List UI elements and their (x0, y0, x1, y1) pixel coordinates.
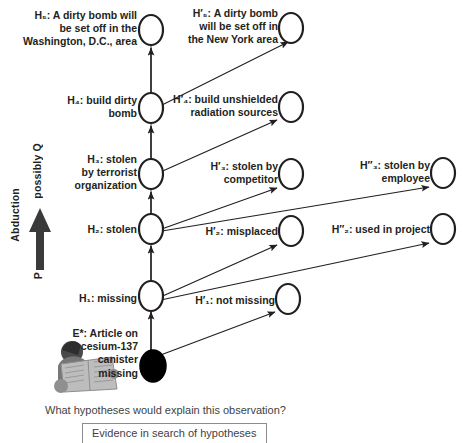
node-label-h4: H₄: build dirty bomb (42, 94, 137, 120)
node-h1[interactable] (139, 281, 163, 311)
node-label-h3: H₃: stolen by terrorist organization (52, 153, 137, 193)
axis-label-possibly-q: possibly Q (31, 143, 43, 199)
node-h3-doubleprime[interactable] (431, 158, 455, 188)
edge-estar-h1p (158, 312, 275, 356)
node-h3[interactable] (139, 159, 163, 189)
abduction-up-arrow-icon (29, 208, 51, 270)
node-h2[interactable] (139, 214, 163, 244)
node-label-h3-prime: H′₃: stolen by competitor (185, 160, 278, 186)
node-label-h1-prime: H′₁: not missing (173, 294, 275, 307)
node-label-estar: E*: Article on cesium-137 canister missi… (56, 327, 138, 380)
node-label-h5: H₅: A dirty bomb will be set off in the … (14, 9, 137, 49)
node-label-h4-prime: H′₄: build unshielded radiation sources (150, 93, 278, 119)
caption-box-evidence-in-search-of-hypotheses: Evidence in search of hypotheses (82, 423, 267, 443)
node-h1-prime[interactable] (276, 284, 300, 314)
axis-label-abduction: Abduction (9, 188, 21, 242)
node-h2-prime[interactable] (279, 216, 303, 246)
node-h2-doubleprime[interactable] (431, 214, 455, 244)
node-label-h2-prime: H′₂: misplaced (178, 225, 278, 238)
node-h5-prime[interactable] (279, 13, 303, 43)
diagram-canvas: H₅: A dirty bomb will be set off in the … (0, 0, 465, 443)
node-h5[interactable] (139, 15, 163, 45)
node-label-h1: H₁: missing (47, 292, 137, 305)
question-text: What hypotheses would explain this obser… (45, 404, 286, 416)
axis-label-p: P (32, 272, 44, 279)
node-h4-prime[interactable] (279, 92, 303, 122)
node-label-h3-doubleprime: H″₃: stolen by employee (337, 159, 430, 185)
node-label-h2-doubleprime: H″₂: used in project (310, 223, 430, 236)
node-label-h2: H₂: stolen (52, 223, 137, 236)
node-h3-prime[interactable] (279, 159, 303, 189)
node-label-h5-prime: H′₅: A dirty bomb will be set off in the… (168, 7, 278, 47)
edge-h1-h2p (156, 245, 277, 299)
node-estar-evidence[interactable] (140, 350, 166, 382)
edge-h1-h2pp (156, 243, 429, 301)
